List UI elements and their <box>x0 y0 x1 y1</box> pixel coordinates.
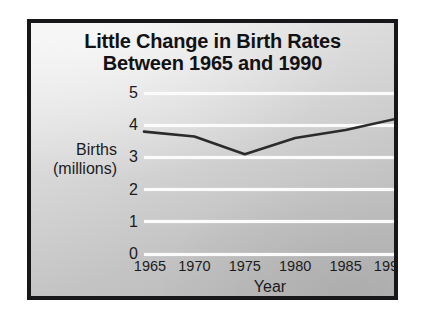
x-tick-label-1970: 1970 <box>178 259 210 274</box>
x-tick-label-1975: 1975 <box>229 259 261 274</box>
chart-title-line-2: Between 1965 and 1990 <box>31 52 394 74</box>
x-tick-label-1990: 1990 <box>374 259 398 274</box>
chart-figure-frame: Little Change in Birth Rates Between 196… <box>27 19 398 300</box>
y-axis-title-line-2: (millions) <box>37 160 117 179</box>
series-births-line <box>144 119 396 154</box>
x-axis-tick-labels: 196519701975198019851990 <box>144 259 396 279</box>
y-tick-label-4: 4 <box>116 117 138 133</box>
plot-area <box>144 93 396 254</box>
chart-title-line-1: Little Change in Birth Rates <box>31 30 394 52</box>
y-axis-tick-labels: 543210 <box>116 93 138 254</box>
y-tick-label-5: 5 <box>116 85 138 101</box>
x-axis-title: Year <box>144 278 396 296</box>
x-tick-label-1980: 1980 <box>279 259 311 274</box>
y-axis-title-line-1: Births <box>37 141 117 160</box>
x-tick-label-1965: 1965 <box>134 259 166 274</box>
data-series-line <box>144 93 396 254</box>
x-tick-label-1985: 1985 <box>329 259 361 274</box>
y-tick-label-3: 3 <box>116 149 138 165</box>
y-axis-title: Births (millions) <box>37 141 117 179</box>
page-canvas: Little Change in Birth Rates Between 196… <box>0 0 422 318</box>
y-tick-label-2: 2 <box>116 182 138 198</box>
chart-title: Little Change in Birth Rates Between 196… <box>31 30 394 75</box>
y-tick-label-1: 1 <box>116 214 138 230</box>
